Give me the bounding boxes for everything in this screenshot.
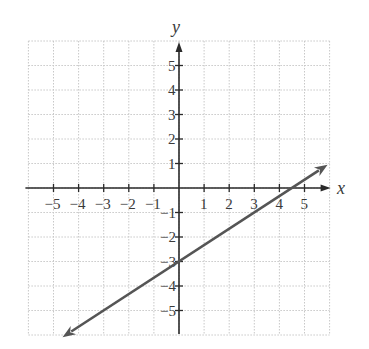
x-tick-label: 2: [225, 196, 233, 212]
y-tick-label: −5: [160, 303, 176, 319]
y-tick-label: −4: [160, 278, 176, 294]
data-line: [71, 170, 319, 331]
y-axis-label: y: [170, 17, 180, 37]
x-tick-label: −2: [120, 196, 136, 212]
x-axis-label: x: [336, 178, 345, 198]
line-arrow-end-icon: [314, 165, 328, 176]
x-tick-label: 5: [301, 196, 309, 212]
x-tick-label: 1: [200, 196, 208, 212]
y-tick-label: −2: [160, 229, 176, 245]
y-tick-label: −1: [160, 205, 176, 221]
x-tick-label: −4: [70, 196, 86, 212]
x-tick-label: −1: [145, 196, 161, 212]
coordinate-plane-chart: −5−4−3−2−11234554321−1−2−3−4−5 x y: [0, 0, 369, 349]
x-tick-label: −5: [45, 196, 61, 212]
axes: [25, 42, 330, 334]
y-tick-label: 1: [168, 156, 176, 172]
y-tick-label: 4: [168, 82, 176, 98]
y-tick-label: 3: [168, 107, 176, 123]
x-tick-label: −3: [95, 196, 111, 212]
line-arrow-start-icon: [63, 326, 77, 337]
y-axis-arrow-icon: [176, 42, 183, 52]
y-tick-label: 2: [168, 131, 176, 147]
plotted-line: [63, 165, 328, 337]
y-tick-label: 5: [168, 58, 176, 74]
